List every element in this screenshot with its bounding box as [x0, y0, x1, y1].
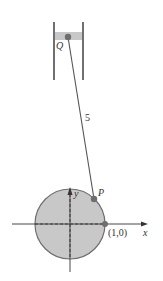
- label-rod-length: 5: [85, 112, 90, 123]
- x-axis-arrow-icon: [141, 222, 148, 227]
- piston-diagram: Q 5 P (1,0) x y: [0, 0, 163, 281]
- label-p: P: [97, 187, 104, 198]
- connecting-rod: [68, 37, 94, 199]
- point-p: [91, 196, 97, 202]
- point-q: [65, 34, 71, 40]
- label-point-1-0: (1,0): [108, 227, 127, 239]
- label-x-axis: x: [142, 227, 148, 238]
- label-y-axis: y: [73, 188, 79, 199]
- label-q: Q: [56, 40, 64, 51]
